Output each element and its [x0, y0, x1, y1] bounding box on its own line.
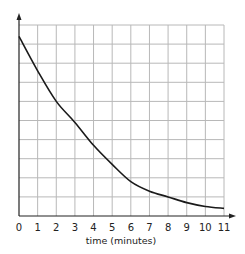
grid-lines — [19, 25, 224, 216]
x-tick-label: 10 — [199, 222, 212, 233]
x-tick-label: 4 — [90, 222, 96, 233]
x-tick-label: 1 — [34, 222, 40, 233]
x-tick-label: 3 — [72, 222, 78, 233]
x-tick-labels: 01234567891011 — [16, 222, 231, 233]
x-tick-label: 6 — [128, 222, 134, 233]
x-tick-label: 8 — [165, 222, 171, 233]
x-tick-label: 2 — [53, 222, 59, 233]
x-tick-label: 11 — [218, 222, 231, 233]
line-chart: 01234567891011 time (minutes) — [0, 0, 245, 254]
x-tick-label: 9 — [184, 222, 190, 233]
x-tick-label: 5 — [109, 222, 115, 233]
x-tick-label: 7 — [146, 222, 152, 233]
data-curve — [19, 36, 224, 208]
x-tick-label: 0 — [16, 222, 22, 233]
x-axis-label: time (minutes) — [86, 235, 156, 246]
